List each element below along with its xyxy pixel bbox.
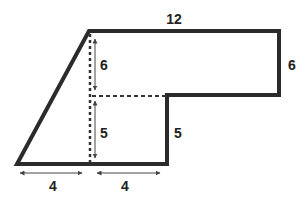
shape-outline [17, 31, 279, 164]
label-bottom-right-width: 4 [121, 178, 129, 194]
composite-shape-diagram: 12 6 6 5 5 4 4 [0, 0, 308, 212]
label-bottom-left-width: 4 [49, 178, 57, 194]
label-inner-lower-height: 5 [100, 125, 108, 141]
label-right-height: 6 [288, 57, 296, 73]
label-top-width: 12 [166, 11, 182, 27]
label-inner-upper-height: 6 [100, 57, 108, 73]
label-step-height: 5 [174, 125, 182, 141]
